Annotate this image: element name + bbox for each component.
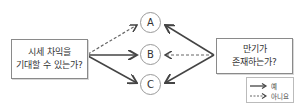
node-a: A [140,12,161,33]
question-line-2: 기대할 수 있는가? [16,59,83,72]
question-box-price-gain: 시세 차익을 기대할 수 있는가? [11,39,88,79]
question-line-2: 존재하는가? [232,56,277,69]
question-box-maturity: 만기가 존재하는가? [216,38,293,74]
question-line-1: 만기가 [232,43,277,56]
dashed-arrow-icon [250,93,268,99]
legend: 예 아니요 [246,77,294,103]
question-line-1: 시세 차익을 [16,46,83,59]
node-c: C [140,74,161,95]
solid-arrow-icon [250,83,268,89]
legend-yes: 예 [271,81,277,91]
legend-no: 아니요 [271,91,289,101]
node-b: B [140,44,161,65]
